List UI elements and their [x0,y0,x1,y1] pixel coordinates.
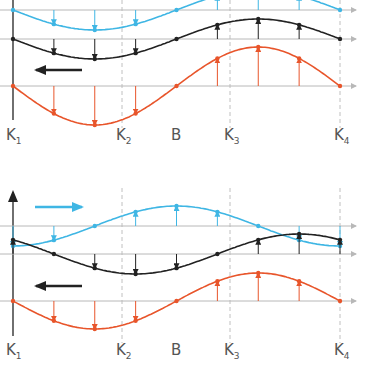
label-bottom-k1: K1 [6,343,22,361]
label-bottom-k4: K4 [334,343,350,361]
top-red-point [11,84,15,88]
top-cyan-point [338,8,342,12]
bottom-red-point [174,299,178,303]
label-top-k1: K1 [6,128,22,146]
top-cyan-point [11,8,15,12]
top-black-point [174,37,178,41]
bottom-black-point [215,252,219,256]
bottom-red-point [338,299,342,303]
bottom-cyan-point [93,224,97,228]
top-cyan-curve [13,0,339,30]
wave-diagram: K1 K2 B K3 K4 K1 K2 B K3 K4 [0,0,369,377]
bottom-red-point [11,299,15,303]
label-top-b: B [171,128,181,143]
top-black-point [338,37,342,41]
top-red-point [338,84,342,88]
label-top-k3: K3 [224,128,240,146]
label-top-k2: K2 [116,128,132,146]
wave-diagram-canvas [0,0,369,377]
bottom-cyan-point [256,224,260,228]
top-black-point [11,37,15,41]
top-red-point [174,84,178,88]
label-bottom-b: B [171,343,181,358]
bottom-black-point [52,252,56,256]
label-top-k4: K4 [334,128,350,146]
label-bottom-k2: K2 [116,343,132,361]
label-bottom-k3: K3 [224,343,240,361]
top-cyan-point [174,8,178,12]
